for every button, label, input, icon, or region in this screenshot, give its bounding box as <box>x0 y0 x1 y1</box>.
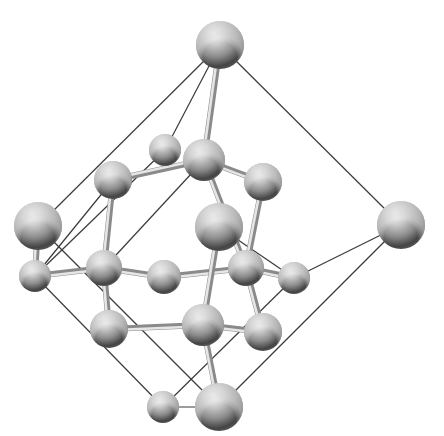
atom-sphere-l2 <box>182 304 224 346</box>
atom-sphere-center <box>195 203 243 251</box>
outline-edge <box>220 45 401 225</box>
atom-sphere-m3 <box>147 260 181 294</box>
atom-sphere-m1 <box>19 260 51 292</box>
atom-sphere-u3 <box>94 161 132 199</box>
atom-sphere-m2 <box>86 250 122 286</box>
atom-sphere-right <box>377 201 425 249</box>
atom-sphere-left <box>14 202 62 250</box>
atom-sphere-u4 <box>244 163 282 201</box>
atom-sphere-u1 <box>149 134 181 166</box>
atom-sphere-l1 <box>90 310 128 348</box>
atom-sphere-top <box>196 21 244 69</box>
atom-sphere-u2 <box>183 139 225 181</box>
atom-sphere-l3 <box>244 313 282 351</box>
crystal-structure-diagram <box>0 0 444 436</box>
outline-edge <box>38 45 220 226</box>
atom-sphere-b2 <box>195 383 243 431</box>
atom-sphere-b1 <box>147 391 179 423</box>
atom-sphere-m4 <box>228 250 264 286</box>
bond-sticks <box>34 45 294 407</box>
ball-and-stick-model <box>0 0 444 436</box>
atom-sphere-m5 <box>278 262 310 294</box>
